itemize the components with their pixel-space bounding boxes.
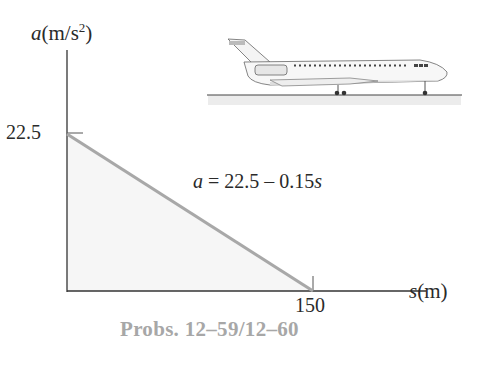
line-equation: a = 22.5 – 0.15s [193, 170, 322, 193]
y-axis-unit-close: ) [85, 21, 92, 45]
equation-var: a [193, 170, 203, 192]
y-axis-label: a(m/s2) [31, 20, 92, 46]
figure-caption: Probs. 12–59/12–60 [120, 317, 299, 342]
airplane-illustration [207, 39, 462, 105]
y-axis-var: a [31, 21, 42, 45]
y-tick-label: 22.5 [6, 121, 41, 144]
x-axis-label: s(m) [409, 279, 448, 304]
x-axis-unit: (m) [417, 279, 447, 303]
equation-s: s [314, 170, 322, 192]
x-axis-var: s [409, 279, 417, 303]
equation-body: = 22.5 – 0.15 [203, 170, 314, 192]
y-axis-unit: (m/s [42, 21, 79, 45]
x-tick-label: 150 [295, 294, 325, 317]
